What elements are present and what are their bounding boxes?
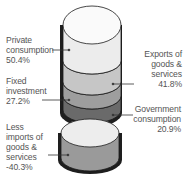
label-fixed-investment: Fixed investment 27.2% — [6, 76, 47, 106]
label-value: 20.9% — [133, 124, 181, 134]
label-text: imports of — [6, 132, 43, 142]
label-value: 41.8% — [144, 79, 182, 89]
upper-cylinder — [60, 6, 122, 127]
upper-cylinder-top — [63, 6, 121, 44]
label-text: investment — [6, 86, 47, 96]
label-text: services — [144, 69, 182, 79]
label-exports: Exports of goods & services 41.8% — [144, 49, 182, 89]
label-government-consumption: Government consumption 20.9% — [133, 104, 181, 134]
label-text: goods & — [6, 142, 43, 152]
label-text: consumption — [133, 114, 181, 124]
label-text: Less — [6, 122, 43, 132]
label-value: 50.4% — [6, 55, 54, 65]
label-text: Fixed — [6, 76, 47, 86]
label-text: Exports of — [144, 49, 182, 59]
label-value: -40.3% — [6, 162, 43, 172]
label-text: consumption — [6, 45, 54, 55]
label-value: 27.2% — [6, 96, 47, 106]
label-text: goods & — [144, 59, 182, 69]
label-text: Private — [6, 35, 54, 45]
label-private-consumption: Private consumption 50.4% — [6, 35, 54, 65]
lower-cylinder-top — [61, 119, 119, 147]
label-less-imports: Less imports of goods & services -40.3% — [6, 122, 43, 172]
lower-cylinder — [58, 119, 122, 174]
label-text: Government — [133, 104, 181, 114]
label-text: services — [6, 152, 43, 162]
